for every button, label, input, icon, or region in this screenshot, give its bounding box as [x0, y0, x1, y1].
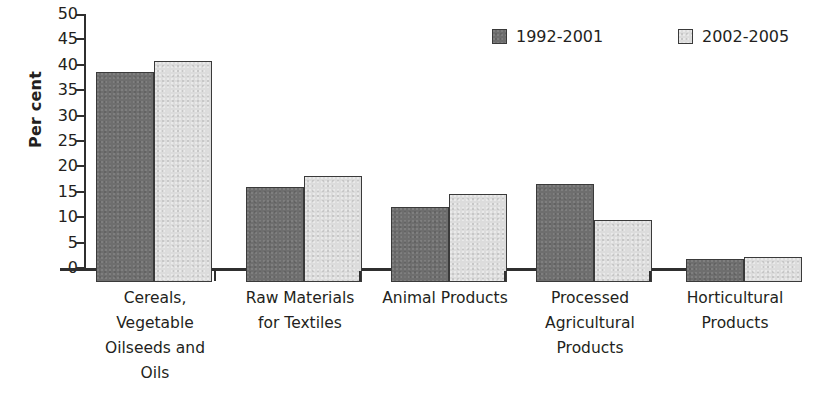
x-axis-category-label: ProcessedAgriculturalProducts [515, 286, 665, 361]
y-axis-tick-mark [76, 216, 85, 218]
y-axis-tick-mark [76, 242, 85, 244]
bar-series2 [594, 220, 652, 282]
category-label-line: Horticultural [660, 286, 810, 311]
category-label-line: Oils [80, 361, 230, 386]
category-label-line: Vegetable [80, 311, 230, 336]
y-axis-tick-mark [76, 140, 85, 142]
legend-label: 2002-2005 [702, 27, 789, 46]
category-label-line: Raw Materials [225, 286, 375, 311]
y-axis-tick-label: 20 [22, 158, 78, 174]
category-label-line: Products [515, 336, 665, 361]
y-axis-tick-mark [76, 38, 85, 40]
category-label-line: Products [660, 311, 810, 336]
y-axis-tick-mark [76, 191, 85, 193]
bar-series1 [246, 187, 304, 283]
x-axis-category-label: HorticulturalProducts [660, 286, 810, 336]
bar-series1 [96, 72, 154, 282]
bar-series1 [391, 207, 449, 282]
y-axis-tick-label: 35 [22, 82, 78, 98]
category-label-line: Agricultural [515, 311, 665, 336]
y-axis-tick-label: 50 [22, 6, 78, 22]
bar-group [536, 28, 652, 282]
legend-swatch-icon [678, 29, 693, 44]
bar-group [246, 28, 362, 282]
x-axis-category-label: Cereals,VegetableOilseeds andOils [80, 286, 230, 386]
y-axis-tick-label: 10 [22, 209, 78, 225]
legend-swatch-icon [492, 29, 507, 44]
bar-group [96, 28, 212, 282]
category-label-line: Oilseeds and [80, 336, 230, 361]
y-axis-tick-mark [76, 89, 85, 91]
bar-series1 [536, 184, 594, 282]
x-axis-category-label: Raw Materialsfor Textiles [225, 286, 375, 336]
x-axis-category-separator-tick [214, 271, 216, 281]
y-axis-tick-label: 15 [22, 184, 78, 200]
x-axis-category-label: Animal Products [370, 286, 520, 311]
bar-series2 [449, 194, 507, 282]
x-axis-category-separator-tick [359, 271, 361, 281]
category-label-line: Animal Products [370, 286, 520, 311]
y-axis-tick-label: 5 [22, 235, 78, 251]
y-axis-tick-label: 25 [22, 133, 78, 149]
y-axis-tick-mark [76, 64, 85, 66]
category-label-line: Cereals, [80, 286, 230, 311]
bar-group [391, 28, 507, 282]
y-axis-tick-mark [76, 165, 85, 167]
legend-label: 1992-2001 [516, 27, 603, 46]
bar-series2 [744, 257, 802, 282]
y-axis-tick-label: 40 [22, 57, 78, 73]
y-axis-tick-mark [76, 115, 85, 117]
bar-series2 [154, 61, 212, 282]
legend-item[interactable]: 1992-2001 [492, 27, 603, 46]
legend-item[interactable]: 2002-2005 [678, 27, 789, 46]
y-axis-tick-label: 30 [22, 108, 78, 124]
bar-series1 [686, 259, 744, 282]
y-axis-tick-label: 45 [22, 31, 78, 47]
x-axis-category-separator-tick [504, 271, 506, 281]
x-axis-category-separator-tick [649, 271, 651, 281]
category-label-line: Processed [515, 286, 665, 311]
bar-chart: Per cent 50454035302520151050 Cereals,Ve… [0, 0, 814, 414]
category-label-line: for Textiles [225, 311, 375, 336]
bar-series2 [304, 176, 362, 282]
plot-area [86, 14, 806, 268]
bar-group [686, 28, 802, 282]
